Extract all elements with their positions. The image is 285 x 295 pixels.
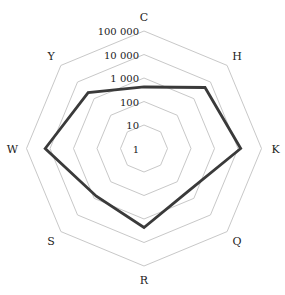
grid-ring [121,125,168,172]
tick-label: 1 000 [110,73,139,84]
axis-label-Y: Y [46,50,55,63]
axis-label-K: K [271,143,280,156]
axis-label-R: R [140,274,149,287]
radar-chart: 1101001 00010 000100 000CHKQRSWY [0,0,285,295]
grid-ring [97,102,191,196]
axis-label-S: S [47,235,55,248]
grid-ring [74,78,215,219]
tick-label: 100 000 [98,26,139,37]
grid-ring [27,31,262,266]
axis-label-H: H [232,50,242,63]
axis-label-Q: Q [232,235,241,248]
tick-label: 100 [120,97,139,108]
grid-ring [50,55,238,243]
tick-label: 10 000 [104,50,139,61]
axis-label-W: W [7,143,19,156]
tick-label: 10 [126,120,139,131]
axis-label-C: C [140,11,148,24]
tick-label: 1 [133,144,139,155]
